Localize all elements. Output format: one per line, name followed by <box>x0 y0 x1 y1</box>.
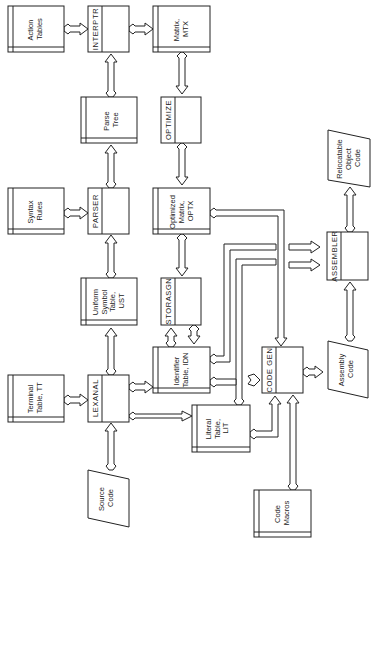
label: Matrix, <box>172 19 181 42</box>
svg-text:Identifier Table, IDN: Identifier Table, IDN <box>172 352 190 387</box>
db-optimized-matrix: Optimized Matrix, OPTX <box>153 188 210 234</box>
arrow-source-code-to-lexanal <box>105 423 117 470</box>
io-relocatable-object-code: Relocatable Object Code <box>328 130 370 187</box>
svg-text:Action Tables: Action Tables <box>26 18 44 41</box>
compiler-structure-diagram: Action Tables Matrix, MTX Parse Tree <box>0 0 379 667</box>
io-source-code: Source Code <box>88 470 129 527</box>
arrow-assembly-code-to-assembler <box>344 282 356 341</box>
arrow-codegen-to-assembly-code <box>303 366 323 378</box>
arrow-code-macros-to-codegen <box>287 395 299 490</box>
process-assembler: ASSEMBLER <box>327 230 368 281</box>
arrow-syntax-rules-to-parser <box>64 207 88 219</box>
arrow-into-assembler-upper <box>289 241 320 253</box>
label: Code <box>106 489 115 507</box>
svg-text:Code Macros: Code Macros <box>273 500 291 525</box>
arrow-action-tables-to-interptr <box>64 23 88 35</box>
label: Code <box>346 360 355 378</box>
db-identifier-table: Identifier Table, IDN <box>153 347 210 393</box>
label: Code <box>273 505 282 523</box>
label: Terminal <box>26 385 35 414</box>
arrow-lexanal-to-idn <box>129 381 153 393</box>
label: Action <box>26 20 35 41</box>
process-storasgn: STORASGN <box>161 278 201 325</box>
process-label: ASSEMBLER <box>330 230 339 281</box>
label: MTX <box>181 21 190 37</box>
io-assembly-code: Assembly Code <box>328 341 368 398</box>
arrow-matrix-to-optimize <box>176 52 188 94</box>
label: OPTX <box>186 201 195 221</box>
label: Code <box>353 149 362 167</box>
process-label: OPTIMIZE <box>164 100 173 140</box>
label: UST <box>117 293 126 308</box>
label: Table, TT <box>35 382 44 414</box>
arrow-idn-to-storasgn <box>165 328 177 347</box>
arrow-interptr-to-matrix <box>129 23 153 35</box>
process-label: CODE GEN <box>265 348 274 393</box>
label: Macros <box>282 500 291 525</box>
label: LIT <box>221 422 230 433</box>
label: Tree <box>111 112 120 127</box>
db-action-tables: Action Tables <box>8 6 64 52</box>
process-lexanal: LEXANAL <box>88 375 129 422</box>
arrow-into-assembler-lower <box>289 259 320 271</box>
db-terminal-table: Terminal Table, TT <box>8 375 64 422</box>
label: Syntax <box>26 200 35 223</box>
label: Source <box>97 487 106 511</box>
arrow-storasgn-to-idn <box>188 325 200 344</box>
db-matrix-mtx: Matrix, MTX <box>153 6 210 52</box>
label: Parse <box>102 111 111 131</box>
arrow-optx-to-storasgn <box>176 234 188 276</box>
arrow-lexanal-to-ust <box>105 328 117 375</box>
label: Table, IDN <box>181 352 190 387</box>
db-literal-table: Literal Table, LIT <box>192 405 250 452</box>
arrow-idn-to-codegen <box>210 377 236 387</box>
arrow-parser-to-parse-tree <box>105 145 117 188</box>
label: Matrix, <box>177 201 186 224</box>
process-label: STORASGN <box>164 278 173 325</box>
arrow-literal-table-to-codegen <box>250 396 281 439</box>
db-syntax-rules: Syntax Rules <box>8 188 64 234</box>
svg-text:Syntax Rules: Syntax Rules <box>26 198 44 223</box>
database-boxes: Action Tables Matrix, MTX Parse Tree <box>8 6 311 537</box>
arrow-parse-tree-to-interptr <box>105 54 117 97</box>
process-optimize: OPTIMIZE <box>161 97 201 143</box>
label: Rules <box>35 201 44 220</box>
arrow-optx-to-codegen <box>210 208 287 346</box>
svg-text:Terminal Table, TT: Terminal Table, TT <box>26 382 44 414</box>
label: Relocatable <box>335 139 344 179</box>
process-label: LEXANAL <box>91 379 100 417</box>
arrow-lexanal-to-literal-table <box>129 411 192 421</box>
process-label: PARSER <box>91 194 100 228</box>
arrow-terminal-table-to-lexanal <box>64 394 88 406</box>
db-code-macros: Code Macros <box>254 490 311 537</box>
arrow-assembler-to-relocatable-code <box>344 187 356 232</box>
arrowhead-into-codegen <box>248 374 260 386</box>
arrow-optimize-to-optx <box>176 143 188 185</box>
label: Assembly <box>337 354 346 387</box>
process-interptr: INTERPTR <box>88 6 129 52</box>
process-label: INTERPTR <box>91 8 100 50</box>
db-parse-tree: Parse Tree <box>81 97 137 143</box>
db-uniform-symbol-table: Uniform Symbol Table, UST <box>81 278 137 325</box>
label: Object <box>344 147 353 170</box>
process-parser: PARSER <box>88 188 129 234</box>
label: Identifier <box>172 356 181 385</box>
label: Optimized <box>168 195 177 229</box>
arrow-ust-to-parser <box>105 235 117 278</box>
process-codegen: CODE GEN <box>262 347 303 393</box>
label: Tables <box>35 18 44 40</box>
